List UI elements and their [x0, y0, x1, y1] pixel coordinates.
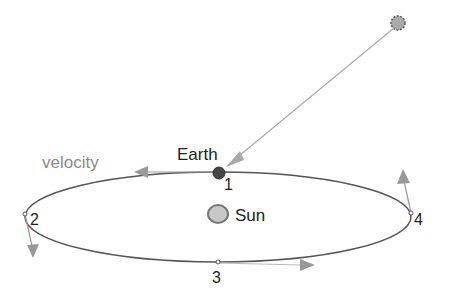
point-4-label: 4 [414, 211, 423, 228]
distant-star-icon [391, 16, 405, 30]
orbit-diagram: Earth Sun velocity 1 2 3 4 [0, 0, 450, 303]
orbit-point-3 [216, 260, 220, 264]
velocity-arrowhead-2 [27, 244, 39, 258]
orbit-point-4 [409, 211, 413, 215]
orbit-point-2 [23, 212, 27, 216]
velocity-arrowhead-3 [300, 259, 315, 271]
sun-label: Sun [235, 206, 265, 225]
starlight-arrow [228, 28, 394, 165]
velocity-arrowhead-4 [397, 169, 410, 184]
velocity-label: velocity [42, 153, 99, 172]
velocity-arrow-3 [218, 263, 302, 265]
point-2-label: 2 [30, 211, 39, 228]
earth-label: Earth [177, 145, 218, 164]
point-3-label: 3 [212, 269, 221, 286]
point-1-label: 1 [224, 176, 233, 193]
sun-icon [208, 205, 228, 223]
